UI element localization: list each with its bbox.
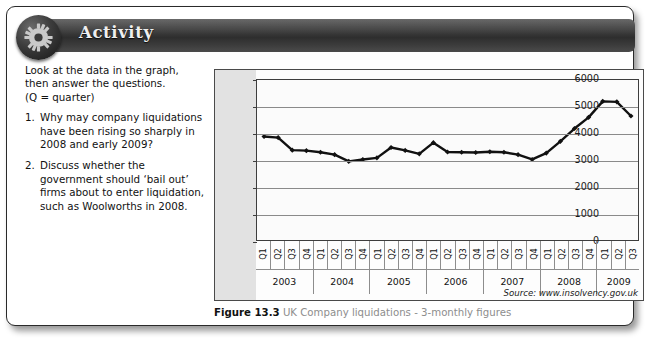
x-axis-quarter-cell: Q3	[398, 241, 413, 269]
x-axis-quarter-label: Q1	[600, 248, 610, 260]
x-axis-quarter-label: Q2	[330, 248, 340, 260]
x-axis-quarter-label: Q2	[443, 248, 453, 260]
y-axis-tick	[253, 107, 257, 108]
y-axis-tick-label: 2000	[565, 181, 599, 192]
x-axis-quarter-cell: Q2	[611, 241, 626, 269]
x-axis-quarter-label: Q1	[373, 248, 383, 260]
x-axis-quarter-cell: Q1	[313, 241, 328, 269]
question-number: 2.	[25, 159, 35, 172]
x-axis-quarter-label: Q4	[415, 248, 425, 260]
x-axis-quarter-cell: Q2	[554, 241, 569, 269]
x-axis-year-label: 2006	[426, 270, 484, 294]
chart-data-point	[501, 150, 506, 155]
chart-frame: 0100020003000400050006000 Q1Q2Q3Q4Q1Q2Q3…	[214, 69, 644, 301]
x-axis-quarter-cell: Q3	[625, 241, 640, 269]
question-text: Discuss whether the government should ‘b…	[40, 159, 204, 211]
x-axis-quarter-cell: Q3	[284, 241, 299, 269]
question-intro: Look at the data in the graph, then answ…	[25, 64, 205, 104]
x-axis-quarter-cell: Q3	[455, 241, 470, 269]
figure-caption: Figure 13.3 UK Company liquidations - 3-…	[214, 307, 511, 318]
x-axis-quarter-label: Q3	[571, 248, 581, 260]
chart-source: Source: www.insolvency.gov.uk	[503, 288, 638, 298]
x-axis-quarter-label: Q1	[316, 248, 326, 260]
question-number: 1.	[25, 111, 35, 124]
y-axis-tick	[253, 161, 257, 162]
x-axis-quarter-cell: Q1	[426, 241, 441, 269]
x-axis-quarter-cell: Q4	[526, 241, 541, 269]
x-axis-quarter-cell: Q2	[327, 241, 342, 269]
page-title: Activity	[79, 23, 154, 42]
x-axis-quarter-cell: Q2	[440, 241, 455, 269]
intro-line-1: Look at the data in the graph,	[25, 64, 205, 77]
question-column: Look at the data in the graph, then answ…	[25, 64, 205, 221]
y-axis-tick	[253, 134, 257, 135]
x-axis-year-label: 2004	[313, 270, 371, 294]
x-axis-quarter-label: Q1	[258, 248, 268, 260]
x-axis-quarter-cell: Q3	[511, 241, 526, 269]
x-axis-quarter-label: Q2	[500, 248, 510, 260]
x-axis-quarter-label: Q2	[387, 248, 397, 260]
chart-data-point	[403, 148, 408, 153]
x-axis-quarter-label: Q3	[344, 248, 354, 260]
gear-icon	[16, 15, 61, 60]
x-axis-quarter-cell: Q4	[355, 241, 370, 269]
question-list: 1. Why may company liquidations have bee…	[25, 111, 205, 213]
x-axis-quarter-label: Q4	[472, 248, 482, 260]
x-axis-quarter-cell: Q4	[582, 241, 597, 269]
x-axis-quarter-label: Q3	[401, 248, 411, 260]
x-axis-quarter-cell: Q3	[341, 241, 356, 269]
x-axis-quarter-cell: Q3	[568, 241, 583, 269]
x-axis-quarter-label: Q1	[543, 248, 553, 260]
figure-caption-text: UK Company liquidations - 3-monthly figu…	[283, 307, 511, 318]
x-axis-quarter-cell: Q1	[369, 241, 384, 269]
x-axis-quarter-label: Q4	[358, 248, 368, 260]
y-axis-tick	[253, 188, 257, 189]
chart-data-point	[318, 150, 323, 155]
x-axis-quarter-cell: Q4	[469, 241, 484, 269]
x-axis-quarter-cell: Q4	[412, 241, 427, 269]
x-axis-quarter-cell: Q1	[596, 241, 611, 269]
x-axis-quarter-label: Q3	[458, 248, 468, 260]
chart-data-point	[459, 150, 464, 155]
y-axis-tick	[253, 80, 257, 81]
x-axis-quarter-cell: Q1	[483, 241, 498, 269]
chart-data-point	[473, 150, 478, 155]
x-axis-quarter-cell: Q4	[299, 241, 314, 269]
list-item: 1. Why may company liquidations have bee…	[25, 111, 205, 151]
x-axis-quarter-cell: Q2	[497, 241, 512, 269]
activity-figure-page: Activity Look at the data in the graph, …	[0, 0, 648, 341]
y-axis-label-strip	[215, 70, 256, 300]
x-axis-quarter-cell: Q1	[256, 241, 270, 269]
x-axis-quarter-cell: Q1	[540, 241, 555, 269]
x-axis-quarter-label: Q4	[302, 248, 312, 260]
y-axis-tick-label: 5000	[565, 100, 599, 111]
x-axis-quarter-label: Q4	[585, 248, 595, 260]
y-axis-tick-label: 3000	[565, 154, 599, 165]
x-axis-quarter-label: Q2	[614, 248, 624, 260]
figure-label: Figure 13.3	[214, 307, 280, 318]
x-axis-quarter-label: Q1	[429, 248, 439, 260]
y-axis-tick	[253, 215, 257, 216]
y-axis-tick-label: 4000	[565, 127, 599, 138]
y-axis-tick-label: 6000	[565, 73, 599, 84]
question-text: Why may company liquidations have been r…	[40, 111, 202, 150]
x-axis-quarter-label: Q4	[529, 248, 539, 260]
intro-line-2: then answer the questions.	[25, 77, 205, 90]
x-axis-quarter-label: Q3	[287, 248, 297, 260]
x-axis: Q1Q2Q3Q4Q1Q2Q3Q4Q1Q2Q3Q4Q1Q2Q3Q4Q1Q2Q3Q4…	[256, 241, 639, 293]
chart-data-point	[304, 148, 309, 153]
intro-line-3: (Q = quarter)	[25, 91, 205, 104]
x-axis-quarter-label: Q3	[628, 248, 638, 260]
x-axis-quarter-label: Q3	[514, 248, 524, 260]
list-item: 2. Discuss whether the government should…	[25, 159, 205, 213]
x-axis-quarter-label: Q2	[557, 248, 567, 260]
y-axis-tick-label: 1000	[565, 208, 599, 219]
x-axis-quarter-cell: Q2	[384, 241, 399, 269]
x-axis-year-label: 2003	[256, 270, 313, 294]
x-axis-quarter-label: Q2	[273, 248, 283, 260]
activity-panel: Activity Look at the data in the graph, …	[6, 6, 634, 326]
chart-data-point	[487, 149, 492, 154]
x-axis-quarter-cell: Q2	[270, 241, 285, 269]
x-axis-quarter-label: Q1	[486, 248, 496, 260]
x-axis-year-label: 2005	[369, 270, 427, 294]
